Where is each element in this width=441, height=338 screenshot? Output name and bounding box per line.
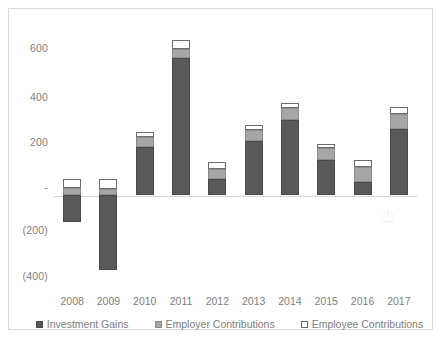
bar-group[interactable] [390,49,408,292]
bar-segment-employer-contributions[interactable] [136,137,154,147]
white-square-icon [301,321,308,328]
bar-segment-employee-contributions[interactable] [245,125,263,130]
bar-segment-employee-contributions[interactable] [136,132,154,137]
bar-group[interactable] [354,49,372,292]
y-tick-label: - [44,181,48,193]
bar-segment-employee-contributions[interactable] [99,179,117,190]
bar-series-container [54,49,417,292]
legend-item-investment-gains: Investment Gains [36,318,129,330]
legend-label: Employee Contributions [312,318,423,330]
legend-item-employee-contributions: Employee Contributions [301,318,423,330]
x-tick-label: 2016 [344,295,380,307]
chart-frame: 600 400 200 - (200) (400) 20082009201020… [8,8,433,330]
dark-gray-square-icon [36,321,43,328]
bar-group[interactable] [136,49,154,292]
chart-legend: Investment Gains Employer Contributions … [17,315,441,333]
y-tick-label: 400 [30,91,48,103]
bar-segment-employer-contributions[interactable] [390,114,408,129]
y-axis: 600 400 200 - (200) (400) [9,9,54,331]
bar-segment-employer-contributions[interactable] [281,108,299,120]
medium-gray-square-icon [155,321,162,328]
x-tick-label: 2011 [163,295,199,307]
bar-segment-employee-contributions[interactable] [63,179,81,189]
bar-segment-employee-contributions[interactable] [281,103,299,108]
bar-segment-employee-contributions[interactable] [317,144,335,148]
x-tick-label: 2017 [381,295,417,307]
bar-group[interactable] [245,49,263,292]
chart-screenshot: 600 400 200 - (200) (400) 20082009201020… [0,0,441,338]
legend-label: Investment Gains [47,318,129,330]
y-tick-label: 200 [30,136,48,148]
bar-segment-investment-gains[interactable] [245,141,263,195]
bar-segment-employer-contributions[interactable] [354,167,372,182]
plot-area [54,49,417,292]
bar-group[interactable] [281,49,299,292]
bar-segment-employer-contributions[interactable] [63,188,81,195]
y-tick-label: (200) [22,224,48,236]
bar-segment-investment-gains[interactable] [63,195,81,222]
bar-group[interactable] [63,49,81,292]
y-tick-label: (400) [22,270,48,282]
bar-segment-investment-gains[interactable] [354,182,372,195]
bar-group[interactable] [99,49,117,292]
legend-label: Employer Contributions [166,318,275,330]
bar-group[interactable] [208,49,226,292]
x-tick-label: 2014 [272,295,308,307]
bar-segment-investment-gains[interactable] [317,160,335,195]
legend-item-employer-contributions: Employer Contributions [155,318,275,330]
bar-segment-employer-contributions[interactable] [245,130,263,141]
bar-segment-employee-contributions[interactable] [390,107,408,114]
x-tick-label: 2013 [236,295,272,307]
x-tick-label: 2008 [54,295,90,307]
bar-segment-employer-contributions[interactable] [317,148,335,160]
bar-segment-investment-gains[interactable] [136,147,154,195]
bar-segment-employer-contributions[interactable] [99,189,117,194]
bar-group[interactable] [317,49,335,292]
x-tick-label: 2009 [90,295,126,307]
bar-segment-investment-gains[interactable] [208,179,226,195]
bar-segment-investment-gains[interactable] [172,58,190,195]
x-tick-label: 2015 [308,295,344,307]
x-tick-label: 2010 [127,295,163,307]
bar-segment-employer-contributions[interactable] [172,49,190,58]
y-tick-label: 600 [30,42,48,54]
x-axis: 2008200920102011201220132014201520162017 [54,295,417,311]
bar-segment-employee-contributions[interactable] [354,160,372,167]
bar-segment-employer-contributions[interactable] [208,169,226,179]
bar-segment-employee-contributions[interactable] [208,162,226,169]
bar-group[interactable] [172,49,190,292]
bar-segment-employee-contributions[interactable] [172,40,190,49]
x-tick-label: 2012 [199,295,235,307]
bar-segment-investment-gains[interactable] [281,120,299,195]
bar-segment-investment-gains[interactable] [390,129,408,195]
bar-segment-investment-gains[interactable] [99,195,117,271]
